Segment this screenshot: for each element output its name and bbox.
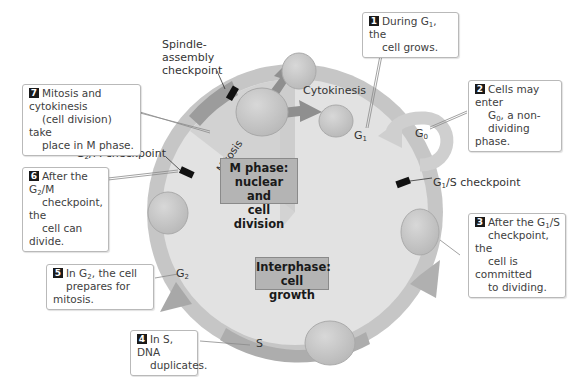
callout-text: cell can divide. <box>29 222 82 247</box>
callout-number: 5 <box>53 268 63 278</box>
cell-g2 <box>148 192 188 234</box>
s-label: S <box>256 337 263 350</box>
cell-s <box>305 321 355 365</box>
callout-7: 7Mitosis and cytokinesis (cell division)… <box>22 84 141 156</box>
m-phase-line-1: M phase: <box>221 161 297 175</box>
g1s-pre: G <box>433 176 442 189</box>
cell-daughter-g1 <box>319 105 353 137</box>
g2-text: G <box>176 267 185 280</box>
callout-text: dividing phase. <box>475 122 530 147</box>
g2-sub: 2 <box>185 273 189 281</box>
g1-sub: 1 <box>363 135 367 143</box>
callout-text: checkpoint, the <box>475 229 549 254</box>
m-phase-label-box: M phase: nuclear and cell division <box>220 158 298 204</box>
callout-text: checkpoint, the <box>29 196 103 221</box>
callout-text: (cell division) take <box>29 113 112 138</box>
callout-number: 7 <box>29 88 39 98</box>
callout-1: 1During G1, the cell grows. <box>362 12 459 58</box>
callout-text: prepares for mitosis. <box>53 280 130 305</box>
g0-label: G0 <box>415 127 428 140</box>
callout-text: place in M phase. <box>29 139 134 151</box>
callout-3: 3After the G1/S checkpoint, the cell is … <box>468 213 566 298</box>
callout-text: /M <box>42 183 55 195</box>
cytokinesis-label: Cytokinesis <box>303 84 366 97</box>
spindle-line-1: Spindle- <box>162 38 222 51</box>
g1s-post: /S checkpoint <box>446 176 520 189</box>
g1s-checkpoint-label: G1/S checkpoint <box>433 176 520 189</box>
callout-number: 6 <box>29 171 39 181</box>
callout-4: 4In S, DNA duplicates. <box>130 330 198 376</box>
m-phase-line-3: cell division <box>221 203 297 231</box>
interphase-line-1: Interphase: <box>256 260 328 274</box>
callout-text: duplicates. <box>137 359 207 371</box>
callout-2: 2Cells may enter G0, a non- dividing pha… <box>468 80 562 152</box>
cell-dividing <box>236 88 288 136</box>
cell-g1s <box>401 209 439 255</box>
m-phase-line-2: nuclear and <box>221 175 297 203</box>
spindle-line-2: assembly <box>162 51 222 64</box>
interphase-label-box: Interphase: cell growth <box>255 257 329 290</box>
callout-text: Mitosis and cytokinesis <box>29 87 101 112</box>
callout-number: 2 <box>475 84 485 94</box>
spindle-line-3: checkpoint <box>162 64 222 77</box>
callout-text: After the G <box>488 216 545 228</box>
callout-6: 6After the G2/M checkpoint, the cell can… <box>22 167 109 252</box>
callout-number: 4 <box>137 334 147 344</box>
callout-text: /S <box>550 216 560 228</box>
callout-text: to dividing. <box>475 281 547 293</box>
callout-5: 5In G2, the cell prepares for mitosis. <box>46 264 154 310</box>
g2-label: G2 <box>176 267 189 280</box>
spindle-checkpoint-label: Spindle- assembly checkpoint <box>162 38 222 77</box>
callout-text: G <box>475 109 496 121</box>
callout-text: During G <box>382 15 429 27</box>
callout-number: 1 <box>369 16 379 26</box>
g0-sub: 0 <box>424 133 428 141</box>
callout-text: cell grows. <box>369 41 438 53</box>
interphase-line-2: cell growth <box>256 274 328 302</box>
g0-text: G <box>415 127 424 140</box>
callout-text: cell is committed <box>475 255 532 280</box>
callout-number: 3 <box>475 217 485 227</box>
callout-text: , the cell <box>92 267 137 279</box>
g1-text: G <box>354 129 363 142</box>
callout-text: In G <box>66 267 87 279</box>
callout-text: , a non- <box>501 109 541 121</box>
g1-label: G1 <box>354 129 367 142</box>
